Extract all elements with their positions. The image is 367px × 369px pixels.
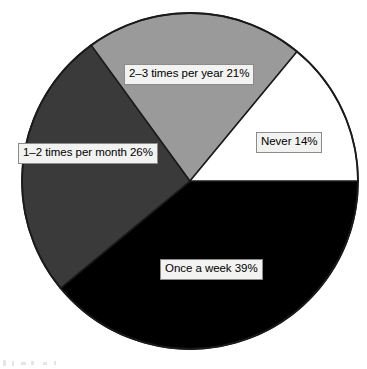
pie-label-one-two-times-per-month: 1–2 times per month 26% (18, 143, 158, 164)
pie-label-never: Never 14% (256, 132, 322, 153)
pie-chart: 2–3 times per year 21% Never 14% 1–2 tim… (0, 0, 367, 369)
pie-chart-graphic (0, 0, 367, 369)
pie-label-once-a-week: Once a week 39% (160, 259, 263, 280)
pie-label-two-three-times-per-year: 2–3 times per year 21% (124, 64, 254, 85)
